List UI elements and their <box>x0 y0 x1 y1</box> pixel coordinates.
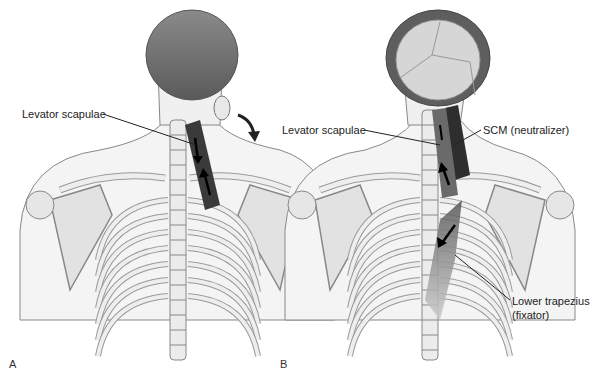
label-levator-scapulae-a: Levator scapulae <box>22 108 106 121</box>
label-fixator: (fixator) <box>512 309 549 322</box>
panel-letter-a: A <box>9 358 16 370</box>
label-lower-trapezius: Lower trapezius <box>512 295 590 308</box>
anatomy-figure: Levator scapulae Levator scapulae SCM (n… <box>0 0 596 379</box>
spine-b <box>422 110 438 360</box>
label-levator-scapulae-b: Levator scapulae <box>282 124 366 137</box>
spine-a <box>170 120 186 360</box>
illustration-canvas <box>0 0 596 379</box>
label-scm-neutralizer: SCM (neutralizer) <box>483 124 569 137</box>
panel-letter-b: B <box>280 358 287 370</box>
